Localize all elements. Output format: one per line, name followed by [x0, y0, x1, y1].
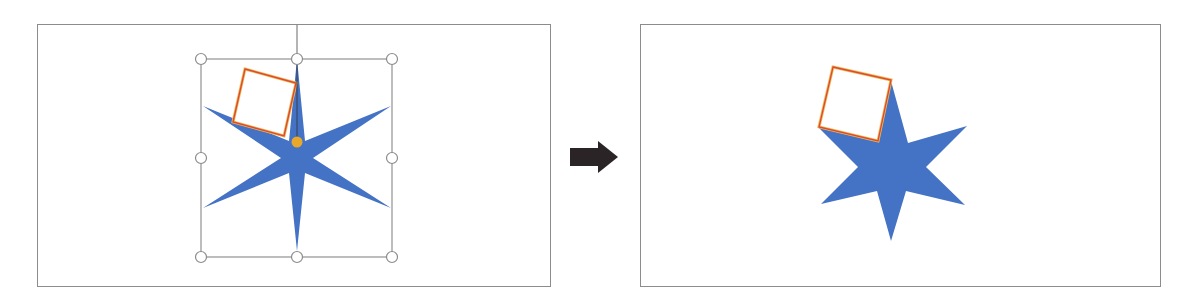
merged-square[interactable] — [819, 67, 891, 141]
canvas-after — [641, 25, 1162, 288]
panel-after — [640, 24, 1161, 287]
resize-handle-top[interactable] — [292, 54, 303, 65]
resize-handle-bottom[interactable] — [292, 252, 303, 263]
arrow-right-icon — [568, 140, 620, 174]
panel-before — [37, 24, 551, 287]
resize-handle-bottom-right[interactable] — [387, 252, 398, 263]
resize-handle-top-right[interactable] — [387, 54, 398, 65]
resize-handle-top-left[interactable] — [196, 54, 207, 65]
canvas-before — [38, 25, 552, 288]
resize-handle-bottom-left[interactable] — [196, 252, 207, 263]
resize-handle-right[interactable] — [387, 153, 398, 164]
resize-handle-left[interactable] — [196, 153, 207, 164]
adjust-handle[interactable] — [292, 137, 303, 148]
rotated-square[interactable] — [233, 69, 296, 136]
